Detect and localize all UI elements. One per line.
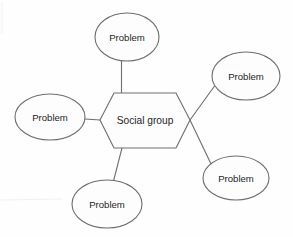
mind-map-diagram: Social group Problem Problem Problem Pro… xyxy=(0,0,293,237)
problem-bottom-label: Problem xyxy=(89,199,125,210)
center-node-social-group[interactable]: Social group xyxy=(100,93,190,148)
problem-top-right-label: Problem xyxy=(228,71,264,82)
leaf-node-problem-left[interactable]: Problem xyxy=(15,94,85,140)
connector-center-to-problem-bottom xyxy=(114,148,123,181)
scan-line-artifact xyxy=(0,199,62,200)
connector-center-to-problem-bottom-right xyxy=(190,120,212,166)
leaf-node-problem-top-right[interactable]: Problem xyxy=(212,52,280,100)
center-node-label: Social group xyxy=(117,115,174,126)
problem-top-label: Problem xyxy=(109,32,145,43)
diagram-canvas: Social group Problem Problem Problem Pro… xyxy=(0,0,293,237)
leaf-node-problem-top[interactable]: Problem xyxy=(95,13,159,61)
leaf-node-problem-bottom[interactable]: Problem xyxy=(72,180,142,228)
problem-left-label: Problem xyxy=(32,112,68,123)
problem-bottom-right-label: Problem xyxy=(218,173,254,184)
connector-center-to-problem-top-right xyxy=(190,84,216,120)
connector-center-to-problem-left xyxy=(85,119,100,120)
leaf-node-problem-bottom-right[interactable]: Problem xyxy=(203,156,269,200)
